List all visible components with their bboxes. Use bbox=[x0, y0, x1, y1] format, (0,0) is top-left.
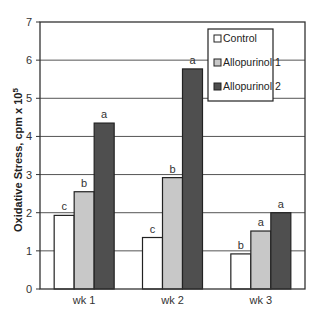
y-tick-label: 0 bbox=[26, 283, 32, 295]
y-axis-ticks: 01234567 bbox=[26, 16, 40, 295]
bar-chart: 01234567 cbacbabaa wk 1wk 2wk 3 Oxidativ… bbox=[0, 0, 322, 325]
legend-swatch bbox=[214, 59, 221, 66]
significance-label: c bbox=[61, 200, 67, 212]
legend-label: Control bbox=[223, 32, 257, 44]
significance-label: b bbox=[169, 163, 175, 175]
y-tick-label: 3 bbox=[26, 169, 32, 181]
y-tick-label: 1 bbox=[26, 245, 32, 257]
y-tick-label: 4 bbox=[26, 130, 32, 142]
legend-swatch bbox=[214, 35, 221, 42]
bar bbox=[54, 215, 74, 289]
y-tick-label: 6 bbox=[26, 54, 32, 66]
significance-label: c bbox=[150, 223, 156, 235]
legend-swatch bbox=[214, 83, 221, 90]
bar bbox=[94, 123, 114, 289]
y-tick-label: 7 bbox=[26, 16, 32, 28]
y-tick-label: 2 bbox=[26, 207, 32, 219]
bar bbox=[271, 213, 291, 289]
significance-label: a bbox=[101, 108, 108, 120]
significance-label: a bbox=[189, 54, 196, 66]
bar bbox=[231, 254, 251, 289]
legend-label: Allopurinol 1 bbox=[223, 56, 281, 68]
significance-label: b bbox=[81, 177, 87, 189]
significance-label: a bbox=[278, 198, 285, 210]
x-category-label: wk 2 bbox=[160, 294, 184, 306]
significance-label: b bbox=[238, 239, 244, 251]
bar bbox=[163, 178, 183, 289]
y-axis-label: Oxidative Stress, cpm x 105 bbox=[11, 88, 24, 232]
bar bbox=[143, 238, 163, 289]
bar bbox=[74, 192, 94, 289]
y-tick-label: 5 bbox=[26, 92, 32, 104]
x-axis-categories: wk 1wk 2wk 3 bbox=[72, 294, 272, 306]
bar bbox=[251, 231, 271, 289]
legend: ControlAllopurinol 1Allopurinol 2 bbox=[208, 29, 281, 101]
significance-label: a bbox=[258, 216, 265, 228]
x-category-label: wk 1 bbox=[72, 294, 96, 306]
bar bbox=[183, 69, 203, 289]
x-category-label: wk 3 bbox=[249, 294, 273, 306]
legend-label: Allopurinol 2 bbox=[223, 80, 281, 92]
